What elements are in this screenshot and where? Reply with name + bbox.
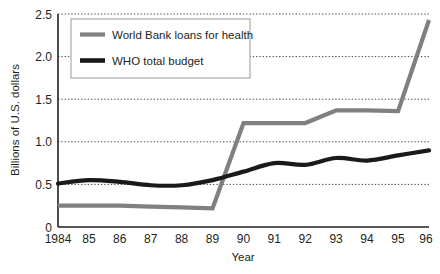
legend-label-who: WHO total budget	[112, 55, 204, 67]
x-tick-label: 93	[329, 232, 343, 246]
y-tick-label: 2.5	[35, 8, 52, 22]
x-tick-label: 88	[175, 232, 189, 246]
line-chart: 2.5 2.0 1.5 1.0 0.5 0 Billions of U.S. d…	[0, 0, 440, 274]
series-line-who	[58, 150, 429, 185]
x-tick-label: 1984	[45, 232, 72, 246]
x-axis-title: Year	[231, 251, 254, 263]
chart-legend: World Bank loans for health WHO total bu…	[71, 19, 253, 78]
y-axis-title: Billions of U.S. dollars	[9, 64, 21, 176]
chart-container: 2.5 2.0 1.5 1.0 0.5 0 Billions of U.S. d…	[0, 0, 440, 274]
x-tick-labels: 1984 85 86 87 88 89 90 91 92 93 94 95 96	[45, 232, 433, 246]
x-tick-label: 92	[299, 232, 313, 246]
x-tick-label: 86	[113, 232, 127, 246]
x-tick-label: 89	[206, 232, 220, 246]
x-tick-label: 94	[360, 232, 374, 246]
y-tick-label: 0.5	[35, 178, 52, 192]
y-tick-label: 1.5	[35, 93, 52, 107]
y-tick-label: 1.0	[35, 135, 52, 149]
x-tick-label: 90	[237, 232, 251, 246]
x-tick-label: 91	[268, 232, 282, 246]
x-tick-label: 87	[144, 232, 158, 246]
x-tick-label: 96	[419, 232, 433, 246]
x-tick-label: 95	[391, 232, 405, 246]
x-tick-label: 85	[82, 232, 96, 246]
y-tick-labels: 2.5 2.0 1.5 1.0 0.5 0	[35, 8, 52, 235]
legend-label-world-bank: World Bank loans for health	[112, 29, 253, 41]
y-tick-label: 2.0	[35, 50, 52, 64]
